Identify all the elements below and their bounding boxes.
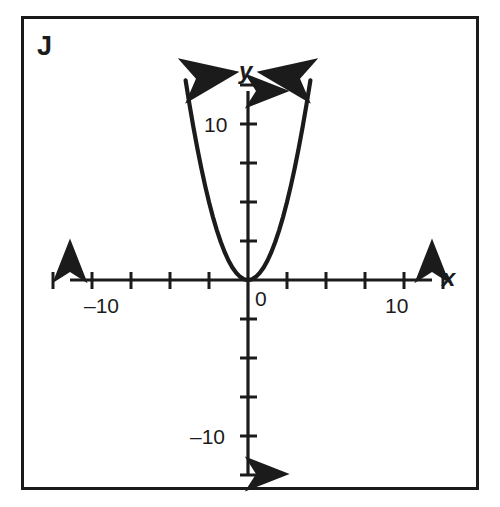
origin-label: 0	[255, 287, 267, 310]
x-tick-label-10: 10	[385, 294, 408, 317]
figure-frame: J x y –10 10 0 10 –10	[21, 16, 479, 490]
y-tick-label-neg-10: –10	[190, 425, 225, 448]
y-axis-label: y	[238, 57, 254, 84]
coordinate-graph: x y –10 10 0 10 –10	[24, 19, 482, 493]
x-axis-label: x	[440, 264, 457, 291]
y-tick-label-10: 10	[204, 113, 227, 136]
x-tick-label-neg-10: –10	[84, 294, 119, 317]
